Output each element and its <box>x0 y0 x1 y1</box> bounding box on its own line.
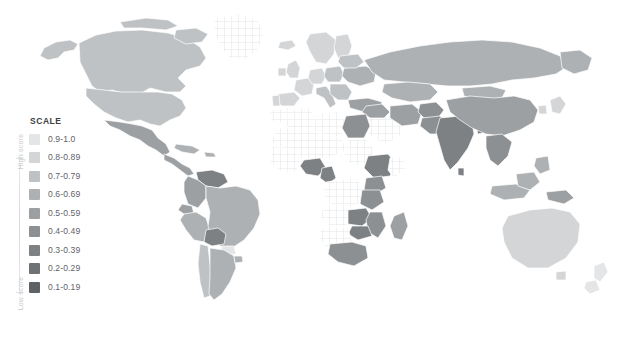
country-korea[interactable] <box>538 105 547 114</box>
legend-swatch <box>29 263 40 274</box>
legend-item[interactable]: 0.1-0.19 <box>29 281 121 294</box>
country-united-states[interactable] <box>40 40 78 60</box>
country-kazakhstan[interactable] <box>382 82 438 102</box>
country-belarus-baltics[interactable] <box>338 54 364 68</box>
country-argentina[interactable] <box>209 248 236 300</box>
country-australia[interactable] <box>502 208 580 268</box>
country-new-zealand-south[interactable] <box>584 280 600 294</box>
country-cuba[interactable] <box>174 144 200 154</box>
country-ireland[interactable] <box>278 68 286 76</box>
country-papua-new-guinea[interactable] <box>546 190 574 204</box>
country-russia-far-east[interactable] <box>560 50 592 74</box>
country-hispaniola[interactable] <box>204 152 216 157</box>
map-countries-group <box>40 14 608 300</box>
legend-swatch <box>29 134 40 145</box>
country-sri-lanka[interactable] <box>458 168 464 176</box>
country-canada-arctic-islands[interactable] <box>120 18 178 30</box>
legend-item[interactable]: 0.5-0.59 <box>29 207 121 220</box>
country-south-africa[interactable] <box>328 242 368 266</box>
country-japan[interactable] <box>550 96 566 114</box>
scale-axis-low-label: Low score <box>17 272 24 316</box>
legend-label: 0.5-0.59 <box>48 209 80 218</box>
legend-item[interactable]: 0.8-0.89 <box>29 151 121 164</box>
map-legend: SCALE 0.9-1.00.8-0.890.7-0.790.6-0.690.5… <box>29 117 121 299</box>
legend-label: 0.1-0.19 <box>48 283 80 292</box>
country-zimbabwe[interactable] <box>348 226 372 240</box>
legend-item[interactable]: 0.4-0.49 <box>29 225 121 238</box>
legend-label: 0.3-0.39 <box>48 246 80 255</box>
legend-item[interactable]: 0.6-0.69 <box>29 188 121 201</box>
country-scandinavia-norway-sweden[interactable] <box>306 32 336 64</box>
country-portugal[interactable] <box>272 95 280 106</box>
country-central-america[interactable] <box>164 154 194 176</box>
legend-swatch <box>29 226 40 237</box>
country-philippines[interactable] <box>534 156 550 174</box>
legend-label: 0.4-0.49 <box>48 227 80 236</box>
country-uruguay[interactable] <box>234 256 243 263</box>
country-finland[interactable] <box>334 34 352 58</box>
country-iceland[interactable] <box>278 40 296 50</box>
country-poland[interactable] <box>324 66 344 82</box>
legend-label: 0.7-0.79 <box>48 172 80 181</box>
legend-rows: 0.9-1.00.8-0.890.7-0.790.6-0.690.5-0.590… <box>29 133 121 294</box>
legend-swatch <box>29 208 40 219</box>
legend-item[interactable]: 0.9-1.0 <box>29 133 121 146</box>
legend-item[interactable]: 0.7-0.79 <box>29 170 121 183</box>
scale-axis: High score Low score <box>12 140 28 310</box>
country-tanzania[interactable] <box>360 190 384 210</box>
country-united-kingdom[interactable] <box>286 60 300 78</box>
country-greenland-no-data[interactable] <box>214 14 264 60</box>
legend-item[interactable]: 0.2-0.29 <box>29 262 121 275</box>
legend-label: 0.6-0.69 <box>48 190 80 199</box>
legend-title: SCALE <box>30 117 121 126</box>
legend-swatch <box>29 171 40 182</box>
country-madagascar[interactable] <box>390 212 408 240</box>
legend-swatch <box>29 245 40 256</box>
legend-item[interactable]: 0.3-0.39 <box>29 244 121 257</box>
scale-axis-high-label: High score <box>17 130 24 174</box>
legend-label: 0.8-0.89 <box>48 153 80 162</box>
world-map-infographic: High score Low score SCALE 0.9-1.00.8-0.… <box>0 0 628 346</box>
legend-label: 0.2-0.29 <box>48 264 80 273</box>
legend-swatch <box>29 189 40 200</box>
country-new-zealand[interactable] <box>594 262 608 282</box>
country-southeast-asia-mainland[interactable] <box>486 134 512 166</box>
country-afghanistan[interactable] <box>418 102 444 118</box>
country-russia[interactable] <box>364 40 568 86</box>
country-germany[interactable] <box>308 68 326 84</box>
legend-swatch <box>29 282 40 293</box>
legend-label: 0.9-1.0 <box>48 135 75 144</box>
country-egypt[interactable] <box>342 114 370 138</box>
country-tasmania[interactable] <box>556 271 566 280</box>
legend-swatch <box>29 152 40 163</box>
